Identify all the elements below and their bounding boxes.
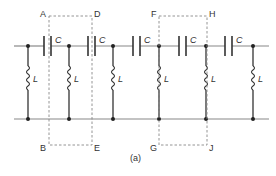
inductor-label: L: [211, 74, 216, 84]
inductor-2: [67, 44, 71, 121]
capacitor-3: [133, 36, 140, 56]
figure-caption: (a): [130, 153, 141, 163]
capacitor-1: [44, 36, 51, 56]
corner-labels: A D B E F H G J: [40, 9, 216, 153]
label-j: J: [209, 143, 214, 153]
label-g: G: [150, 143, 157, 153]
label-a: A: [40, 9, 46, 19]
inductor-6: [251, 44, 255, 121]
label-d: D: [94, 9, 101, 19]
ladder-network-diagram: C C C C C L L L L L L A D B: [0, 0, 276, 176]
inductor-3: [111, 44, 115, 121]
capacitor-5: [225, 36, 232, 56]
label-e: E: [94, 143, 100, 153]
inductor-4: [157, 44, 161, 121]
inductor-label: L: [74, 74, 79, 84]
label-f: F: [151, 9, 157, 19]
capacitor-labels: C C C C C: [55, 35, 243, 45]
inductor-label: L: [118, 74, 123, 84]
capacitor-label: C: [236, 35, 243, 45]
capacitor-label: C: [99, 35, 106, 45]
capacitor-4: [179, 36, 186, 56]
inductor-label: L: [33, 74, 38, 84]
inductor-1: [26, 44, 30, 121]
inductor-label: L: [164, 74, 169, 84]
label-h: H: [209, 9, 216, 19]
capacitor-2: [88, 36, 95, 56]
capacitor-label: C: [190, 35, 197, 45]
inductor-label: L: [258, 74, 263, 84]
capacitor-label: C: [55, 35, 62, 45]
capacitor-label: C: [144, 35, 151, 45]
label-b: B: [40, 143, 46, 153]
